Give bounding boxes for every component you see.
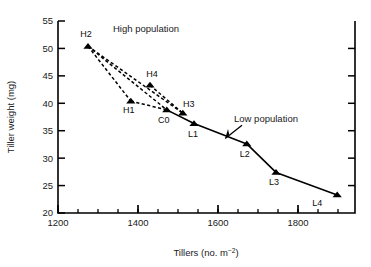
marker-h4[interactable] — [145, 82, 154, 88]
point-label-h1: H1 — [123, 105, 135, 115]
x-axis-title: Tillers (no. m−2) — [173, 247, 238, 258]
y-tick-label: 30 — [42, 153, 53, 164]
plot-frame — [58, 21, 355, 213]
right-axis-ticks — [348, 48, 355, 185]
high-population-series-line — [88, 46, 183, 113]
y-axis-title: Tiller weight (mg) — [5, 81, 16, 154]
point-label-c0: C0 — [158, 115, 170, 125]
point-label-l4: L4 — [312, 198, 322, 208]
x-tick-label: 1200 — [47, 217, 68, 228]
tiller-weight-vs-tillers-scatter-plot: 2025303540455055 1200140016001800 H2H1H4… — [0, 0, 371, 267]
point-label-l2: L2 — [240, 149, 250, 159]
low-population-annotation: Low population — [234, 113, 298, 124]
point-label-l3: L3 — [269, 177, 279, 187]
y-axis-tick-labels: 2025303540455055 — [42, 15, 53, 218]
high-population-segment-h2-h3 — [88, 46, 183, 113]
y-tick-label: 25 — [42, 180, 53, 191]
x-tick-label: 1600 — [207, 217, 228, 228]
y-tick-label: 45 — [42, 70, 53, 81]
plot-annotations: High populationLow population — [113, 23, 298, 138]
x-tick-label: 1800 — [287, 217, 308, 228]
y-tick-label: 55 — [42, 15, 53, 26]
marker-h2[interactable] — [83, 43, 92, 49]
high-population-segment-h2-h1 — [88, 46, 131, 101]
data-point-markers[interactable] — [83, 43, 341, 197]
point-label-h2: H2 — [80, 29, 92, 39]
marker-h1[interactable] — [126, 98, 135, 104]
high-population-annotation: High population — [113, 23, 179, 34]
marker-h3[interactable] — [178, 110, 187, 116]
y-tick-label: 50 — [42, 43, 53, 54]
x-tick-label: 1400 — [127, 217, 148, 228]
point-label-h3: H3 — [183, 99, 195, 109]
chart-figure: 2025303540455055 1200140016001800 H2H1H4… — [0, 0, 371, 267]
high-population-segment-h1-c0 — [131, 101, 167, 110]
y-axis-ticks — [58, 21, 65, 213]
x-axis-tick-labels: 1200140016001800 — [47, 217, 308, 228]
y-tick-label: 35 — [42, 125, 53, 136]
y-tick-label: 40 — [42, 98, 53, 109]
point-label-l1: L1 — [188, 129, 198, 139]
point-label-h4: H4 — [146, 69, 158, 79]
